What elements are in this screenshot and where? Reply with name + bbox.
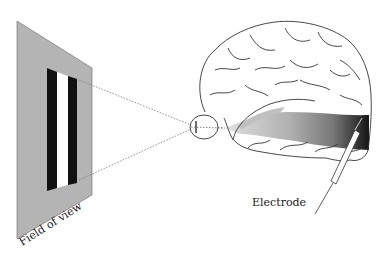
stimulus-bars: [47, 68, 77, 191]
diagram-canvas: Field of view Electrode: [0, 0, 386, 260]
visual-pathway: [225, 107, 369, 150]
eye: [190, 115, 224, 139]
electrode-label: Electrode: [252, 196, 306, 209]
